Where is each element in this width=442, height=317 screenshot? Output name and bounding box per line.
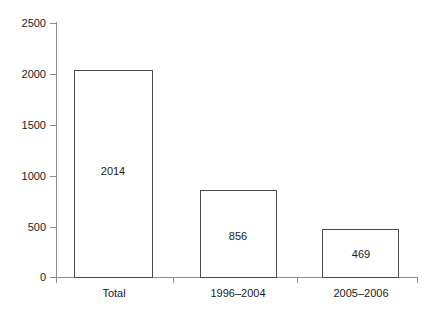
y-axis-label: 2500 bbox=[22, 18, 46, 29]
y-axis-line bbox=[56, 22, 57, 278]
bar-chart: 2500 2000 1500 1000 500 0 2014 856 469 T… bbox=[0, 0, 442, 317]
x-axis-label-1996-2004: 1996–2004 bbox=[210, 287, 265, 299]
y-axis-tick bbox=[50, 227, 56, 228]
bar-value-total: 2014 bbox=[101, 166, 125, 177]
x-axis-tick bbox=[297, 277, 298, 283]
y-axis-label: 2000 bbox=[22, 69, 46, 80]
x-axis-tick bbox=[173, 277, 174, 283]
y-axis-label: 0 bbox=[40, 272, 46, 283]
bar-value-2005-2006: 469 bbox=[352, 249, 370, 260]
x-axis-tick bbox=[56, 277, 57, 283]
y-axis-label: 500 bbox=[28, 222, 46, 233]
x-axis-label-total: Total bbox=[102, 287, 125, 299]
x-axis-tick bbox=[417, 277, 418, 283]
plot-area: 2500 2000 1500 1000 500 0 2014 856 469 T… bbox=[0, 0, 442, 317]
y-axis-label: 1500 bbox=[22, 120, 46, 131]
y-axis-tick bbox=[50, 74, 56, 75]
y-axis-tick bbox=[50, 125, 56, 126]
y-axis-label: 1000 bbox=[22, 171, 46, 182]
bar-value-1996-2004: 856 bbox=[229, 231, 247, 242]
y-axis-tick bbox=[50, 23, 56, 24]
y-axis-tick bbox=[50, 176, 56, 177]
x-axis-label-2005-2006: 2005–2006 bbox=[333, 287, 388, 299]
